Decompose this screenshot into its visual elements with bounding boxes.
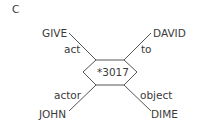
edge-label-to: to	[141, 43, 152, 55]
node-dime: DIME	[151, 108, 178, 120]
panel-label: C	[12, 3, 19, 15]
edge-label-act: act	[64, 43, 80, 55]
node-give: GIVE	[42, 27, 67, 39]
node-david: DAVID	[153, 27, 186, 39]
node-john: JOHN	[39, 108, 66, 120]
center-node-label: *3017	[97, 66, 129, 78]
edge-label-actor: actor	[54, 89, 81, 101]
edge-label-object: object	[140, 89, 172, 101]
